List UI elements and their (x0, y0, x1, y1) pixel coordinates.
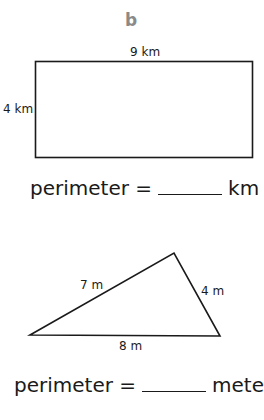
triangle-base-label: 8 m (119, 339, 142, 353)
triangle-answer-blank[interactable] (142, 377, 206, 392)
triangle-left-side-label: 7 m (80, 278, 103, 292)
triangle-shape (30, 253, 220, 336)
perimeter-prefix: perimeter = (14, 373, 136, 397)
rectangle-shape (36, 62, 253, 158)
perimeter-unit: meters (212, 373, 264, 397)
rectangle-answer-blank[interactable] (158, 180, 222, 195)
rectangle-side-label: 4 km (3, 102, 33, 116)
triangle-perimeter-row: perimeter =meters (14, 373, 264, 397)
perimeter-unit: km (228, 176, 259, 200)
perimeter-prefix: perimeter = (30, 176, 152, 200)
triangle-right-side-label: 4 m (201, 284, 224, 298)
shapes-diagram (0, 0, 264, 420)
rectangle-perimeter-row: perimeter =km (30, 176, 259, 200)
rectangle-top-label: 9 km (130, 45, 160, 59)
